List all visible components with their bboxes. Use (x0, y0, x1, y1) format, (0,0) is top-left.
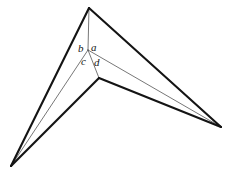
ray-node-to-apex (88, 8, 89, 50)
ray-node-to-left (11, 50, 88, 166)
angle-label-c: c (81, 56, 86, 67)
ray-node-to-right (88, 50, 221, 127)
geometric-figure-svg (0, 0, 228, 171)
figure-canvas: b a c d (0, 0, 228, 171)
edge-notch-to-right (99, 78, 221, 127)
angle-label-b: b (78, 43, 84, 54)
angle-label-d: d (94, 57, 100, 68)
thick-outline-edges (11, 8, 221, 166)
angle-label-a: a (91, 42, 97, 53)
edge-apex-to-left (11, 8, 89, 166)
edge-left-to-notch (11, 78, 99, 166)
edge-apex-to-right (89, 8, 221, 127)
